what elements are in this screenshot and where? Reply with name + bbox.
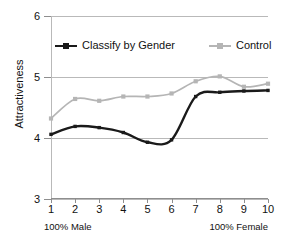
data-point-marker: [266, 82, 270, 86]
axis-end-label-left: 100% Male: [44, 221, 92, 232]
legend-label-primary: Classify by Gender: [82, 39, 175, 51]
chart-legend: Classify by Gender Control: [55, 39, 271, 51]
data-point-marker: [73, 125, 76, 128]
data-point-marker: [97, 99, 101, 103]
x-tick-label-4: 4: [120, 203, 126, 215]
legend-label-secondary: Control: [236, 39, 271, 51]
data-point-marker: [194, 79, 198, 83]
x-tick-label-8: 8: [217, 203, 223, 215]
data-point-marker: [98, 126, 101, 129]
data-point-marker: [170, 138, 173, 141]
series-line: [51, 76, 268, 118]
data-point-marker: [194, 95, 197, 98]
legend-item-control[interactable]: Control: [209, 39, 271, 51]
data-point-marker: [49, 133, 52, 136]
data-point-marker: [122, 131, 125, 134]
data-point-marker: [169, 91, 173, 95]
series-control: [49, 74, 270, 120]
data-point-marker: [121, 94, 125, 98]
data-point-marker: [73, 97, 77, 101]
data-point-marker: [242, 89, 245, 92]
x-tick-label-3: 3: [96, 203, 102, 215]
y-tick-label-6: 6: [34, 10, 40, 22]
data-point-marker: [218, 74, 222, 78]
x-tick-label-6: 6: [168, 203, 174, 215]
data-point-marker: [242, 85, 246, 89]
x-tick-label-1: 1: [48, 203, 54, 215]
series-classify-by-gender: [49, 89, 269, 145]
x-tick-label-7: 7: [193, 203, 199, 215]
x-tick-label-10: 10: [262, 203, 274, 215]
data-point-marker: [266, 89, 269, 92]
data-point-marker: [145, 94, 149, 98]
legend-marker-icon-secondary: [209, 41, 231, 50]
gridline-y-3: [51, 199, 268, 200]
data-point-marker: [218, 91, 221, 94]
axis-end-label-right: 100% Female: [209, 221, 268, 232]
data-point-marker: [146, 141, 149, 144]
y-tick-label-3: 3: [34, 193, 40, 205]
x-tick-label-5: 5: [144, 203, 150, 215]
y-tick-label-5: 5: [34, 71, 40, 83]
y-axis-title: Attractiveness: [13, 34, 25, 154]
y-tick-3: [44, 199, 51, 200]
y-tick-label-4: 4: [34, 132, 40, 144]
legend-marker-icon-primary: [55, 41, 77, 50]
x-tick-label-9: 9: [241, 203, 247, 215]
data-point-marker: [49, 116, 53, 120]
x-tick-label-2: 2: [72, 203, 78, 215]
chart-figure: Attractiveness 6543 12345678910 100% Mal…: [0, 0, 287, 247]
legend-item-classify-by-gender[interactable]: Classify by Gender: [55, 39, 175, 51]
